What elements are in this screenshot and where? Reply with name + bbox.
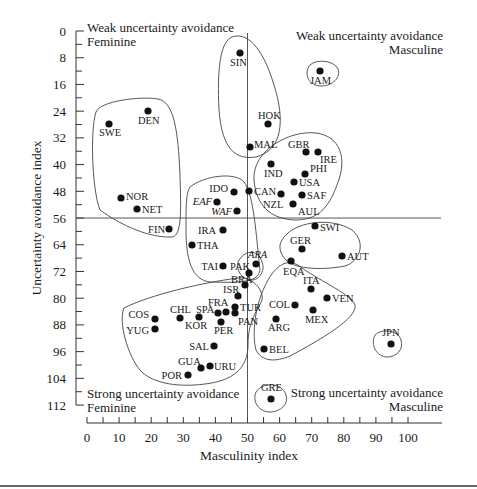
point-label: TAI: [201, 261, 218, 272]
point-label: SIN: [230, 57, 247, 68]
point-marker: [245, 187, 252, 194]
point-marker: [165, 225, 172, 232]
point-label: WAF: [211, 206, 232, 217]
data-point-usa: USA: [290, 177, 320, 188]
point-marker: [311, 222, 318, 229]
x-tick-label: 20: [145, 430, 158, 445]
point-label: MEX: [305, 314, 329, 325]
point-label: ARA: [247, 249, 268, 260]
data-point-ido: IDO: [209, 183, 237, 196]
point-label: AUT: [347, 251, 369, 262]
point-marker: [233, 207, 240, 214]
point-label: SAF: [307, 190, 326, 201]
y-tick-label: 56: [53, 211, 67, 226]
point-marker: [213, 198, 220, 205]
y-tick-label: 0: [60, 24, 67, 39]
point-label: NZL: [263, 199, 283, 210]
point-marker: [289, 200, 296, 207]
x-tick-label: 40: [209, 430, 222, 445]
point-label: CAN: [254, 186, 277, 197]
point-marker: [252, 260, 259, 267]
point-label: GUA: [178, 356, 201, 367]
point-marker: [222, 308, 229, 315]
data-point-hok: HOK: [258, 110, 281, 128]
y-tick-label: 24: [53, 104, 67, 119]
point-marker: [309, 306, 316, 313]
data-points: SINJAMHOKMALDENSWENORNETFINGBRIREINDPHIU…: [99, 49, 400, 402]
point-marker: [144, 107, 151, 114]
y-tick-label: 72: [53, 264, 66, 279]
svg-text:Weak uncertainty avoidance: Weak uncertainty avoidance: [87, 20, 234, 35]
point-label: KOR: [185, 320, 207, 331]
point-label: PHI: [310, 163, 327, 174]
y-tick-label: 104: [47, 371, 67, 386]
point-label: EAF: [192, 196, 213, 207]
data-point-ven: VEN: [323, 293, 354, 304]
y-tick-label: 8: [60, 50, 67, 65]
point-marker: [264, 120, 271, 127]
x-tick-label: 30: [177, 430, 190, 445]
data-point-phi: PHI: [301, 163, 327, 178]
point-label: PAN: [238, 316, 258, 327]
point-label: IND: [264, 168, 283, 179]
point-label: YUG: [126, 325, 149, 336]
data-point-den: DEN: [138, 107, 160, 126]
data-point-aul: AUL: [289, 200, 319, 217]
x-tick-label: 60: [273, 430, 286, 445]
point-label: URU: [214, 361, 237, 372]
point-marker: [298, 191, 305, 198]
point-label: PER: [214, 325, 233, 336]
point-marker: [230, 188, 237, 195]
point-label: COL: [269, 299, 290, 310]
point-marker: [176, 314, 183, 321]
point-marker: [260, 345, 267, 352]
data-point-swi: SWI: [311, 222, 339, 233]
point-label: VEN: [332, 293, 354, 304]
point-label: FIN: [148, 224, 165, 235]
quadrant-label-top-left: Weak uncertainty avoidance Feminine: [87, 20, 234, 49]
svg-text:Strong uncertainty avoidance: Strong uncertainty avoidance: [291, 385, 444, 400]
point-marker: [133, 205, 140, 212]
point-marker: [206, 362, 213, 369]
point-label: CHL: [170, 304, 191, 315]
data-point-ger: GER: [290, 235, 311, 253]
point-label: ITA: [303, 275, 320, 286]
svg-text:Masculine: Masculine: [389, 399, 443, 414]
y-tick-label: 112: [47, 398, 66, 413]
point-marker: [291, 301, 298, 308]
point-marker: [219, 226, 226, 233]
data-point-waf: WAF: [211, 206, 240, 217]
point-marker: [387, 340, 394, 347]
x-tick-label: 90: [369, 430, 382, 445]
point-marker: [323, 294, 330, 301]
data-point-gre: GRE: [261, 382, 282, 403]
data-point-mal: MAL: [246, 139, 277, 151]
data-point-aut: AUT: [338, 251, 369, 262]
data-point-mex: MEX: [305, 306, 329, 325]
point-marker: [298, 245, 305, 252]
point-label: DEN: [138, 115, 160, 126]
data-point-nor: NOR: [117, 191, 148, 202]
point-marker: [219, 262, 226, 269]
point-marker: [307, 285, 314, 292]
y-tick-label: 96: [53, 344, 67, 359]
point-label: IRA: [198, 225, 217, 236]
point-label: PAK: [230, 261, 250, 272]
data-point-ara: ARA: [247, 249, 268, 268]
data-point-gbr: GBR: [288, 139, 310, 156]
x-tick-label: 0: [84, 430, 91, 445]
point-marker: [184, 371, 191, 378]
y-tick-label: 80: [53, 291, 66, 306]
y-axis-title: Uncertainty avoidance index: [29, 140, 44, 295]
point-label: NOR: [126, 191, 148, 202]
point-label: SWE: [99, 127, 121, 138]
data-point-fin: FIN: [148, 224, 173, 235]
data-point-uru: URU: [206, 361, 236, 372]
point-label: ISR: [223, 284, 239, 295]
point-marker: [214, 309, 221, 316]
data-point-ita: ITA: [303, 275, 320, 293]
point-label: GER: [290, 235, 311, 246]
x-tick-label: 10: [113, 430, 126, 445]
point-marker: [236, 49, 243, 56]
data-point-arg: ARG: [268, 315, 291, 333]
